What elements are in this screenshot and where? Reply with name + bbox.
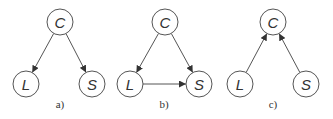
edge-l-to-c (246, 33, 267, 72)
node-s: S (186, 71, 212, 97)
edge-c-to-s (171, 33, 192, 72)
node-l: L (117, 71, 143, 97)
diagram-b: C L S b) (117, 9, 212, 111)
svg-text:C: C (55, 14, 66, 31)
caption-b: b) (159, 98, 169, 111)
diagram-a: C L S a) (13, 9, 105, 111)
edge-s-to-c (279, 33, 300, 72)
caption-a: a) (56, 98, 65, 111)
node-l: L (227, 71, 253, 97)
node-s: S (79, 71, 105, 97)
edge-c-to-l (136, 33, 158, 72)
edge-c-to-s (66, 34, 86, 73)
node-s: S (293, 71, 319, 97)
bayesian-network-diagrams: C L S a) C L S b) C L (0, 0, 333, 119)
svg-text:L: L (22, 76, 30, 93)
node-c: C (152, 9, 178, 35)
svg-text:L: L (126, 76, 134, 93)
svg-text:S: S (87, 76, 97, 93)
svg-text:C: C (160, 14, 171, 31)
svg-text:L: L (236, 76, 244, 93)
diagram-c: C L S c) (227, 9, 319, 111)
svg-text:S: S (301, 76, 311, 93)
caption-c: c) (269, 98, 278, 111)
svg-text:C: C (268, 14, 279, 31)
node-l: L (13, 71, 39, 97)
node-c: C (47, 9, 73, 35)
node-c: C (260, 9, 286, 35)
svg-text:S: S (194, 76, 204, 93)
edge-c-to-l (32, 33, 53, 72)
